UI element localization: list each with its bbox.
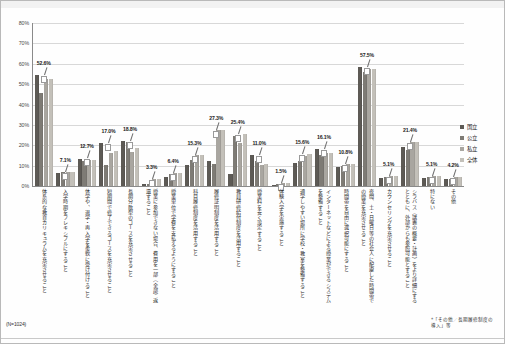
y-axis-tick: 40% xyxy=(3,102,29,108)
bar xyxy=(315,149,319,186)
x-axis-label: 入学時期をフレキシブルにすること xyxy=(62,189,69,272)
legend-label: 公立 xyxy=(467,134,477,142)
x-axis-label: 休学や、退学・再入学を柔軟に受け付けること xyxy=(83,189,90,298)
bar-group: 10.8% xyxy=(335,23,357,186)
label-marker xyxy=(127,142,133,149)
bar xyxy=(367,69,371,186)
legend-item[interactable]: 全体 xyxy=(460,154,498,165)
label-leader-line xyxy=(389,168,392,176)
label-marker xyxy=(429,177,435,184)
bar xyxy=(233,136,237,186)
bar xyxy=(104,165,108,186)
label-leader-line xyxy=(65,164,68,172)
legend-swatch-icon xyxy=(460,147,464,151)
label-marker xyxy=(342,165,348,172)
y-axis-tick: 10% xyxy=(3,163,29,169)
label-marker xyxy=(299,155,305,162)
legend-item[interactable]: 国立 xyxy=(460,121,498,132)
x-axis-label: 科目履修制度を活用すること xyxy=(191,189,198,257)
bar-group: 5.1% xyxy=(421,23,443,186)
x-axis-label-cell: 授業に参加できない場合、費用を一部（全部）返還すること xyxy=(141,189,163,307)
bar xyxy=(216,130,220,186)
x-axis-label-cell: 入学時期をフレキシブルにすること xyxy=(55,189,77,307)
bar xyxy=(415,142,419,186)
legend-label: 国立 xyxy=(467,123,477,131)
x-axis-label-cell: 授業単位で学費を支払えるようにすること xyxy=(162,189,184,307)
label-leader-line xyxy=(432,168,435,176)
label-leader-line xyxy=(216,123,219,131)
x-axis-label-cell: 時間帯を自由に選択可能にすること xyxy=(335,189,357,307)
bar xyxy=(406,150,410,186)
x-axis-label: 授業単位で学費を支払えるようにすること xyxy=(169,189,176,288)
bar xyxy=(260,165,264,186)
label-leader-line xyxy=(367,59,370,67)
x-axis-labels: 体系的な教育カリキュラムを充実させること入学時期をフレキシブルにすること休学や、… xyxy=(33,189,464,307)
legend-item[interactable]: 公立 xyxy=(460,132,498,143)
label-marker xyxy=(235,135,241,142)
x-axis-label: 履修証明制度を活用すること xyxy=(213,189,220,257)
x-axis-label-cell: 教員研修給付制度を活用すること xyxy=(227,189,249,307)
bar xyxy=(200,155,204,186)
bar xyxy=(212,164,216,186)
x-axis-label: 短期間で修了できるコースを充実させること xyxy=(105,189,112,293)
bar xyxy=(298,161,302,186)
bar-group: 16.1% xyxy=(313,23,335,186)
label-leader-line xyxy=(453,170,456,178)
bar xyxy=(92,160,96,186)
bar xyxy=(401,147,405,186)
bar xyxy=(293,163,297,186)
label-marker xyxy=(407,143,413,150)
bar-group: 18.8% xyxy=(119,23,141,186)
label-marker xyxy=(41,76,47,83)
bar xyxy=(207,161,211,186)
bar xyxy=(109,153,113,186)
bar xyxy=(358,67,362,186)
bar-group: 52.6% xyxy=(33,23,55,186)
x-axis-label-cell: 授業料を安く設定すること xyxy=(248,189,270,307)
bar xyxy=(243,134,247,186)
x-axis-label: その他 xyxy=(450,189,457,205)
bar xyxy=(185,165,189,186)
bar xyxy=(286,183,290,186)
bar xyxy=(190,160,194,186)
legend-label: 私立 xyxy=(467,145,477,153)
legend-swatch-icon xyxy=(460,158,464,162)
gridline xyxy=(32,186,464,187)
label-marker xyxy=(364,68,370,75)
x-axis-label: シラバス（講義の概要・計画）をより詳細にするとともに、外部からも参照可能とするこ… xyxy=(403,189,417,305)
label-leader-line xyxy=(324,142,327,150)
data-label: 10.8% xyxy=(338,149,352,155)
legend-swatch-icon xyxy=(460,136,464,140)
data-label: 21.4% xyxy=(403,127,417,133)
bar-group: 1.5% xyxy=(270,23,292,186)
x-axis-label: カウンセリングを充実させること xyxy=(385,189,392,267)
label-marker xyxy=(62,173,68,180)
label-leader-line xyxy=(173,165,176,173)
bar xyxy=(157,179,161,186)
label-leader-line xyxy=(44,67,47,75)
legend-swatch-icon xyxy=(460,125,464,129)
legend-item[interactable]: 私立 xyxy=(460,143,498,154)
x-axis-label: 授業料を安く設定すること xyxy=(256,189,263,251)
x-axis-label-cell: 夜間、土・日曜日等の社会人に配慮した時間帯での授業を充実させること xyxy=(356,189,378,307)
label-marker xyxy=(170,174,176,181)
bar-group: 6.4% xyxy=(162,23,184,186)
x-axis-label-cell: カウンセリングを充実させること xyxy=(378,189,400,307)
x-axis-label: インターネットなどによる授業ができるシステムを整備すること xyxy=(317,189,331,305)
y-axis-tick: 70% xyxy=(3,40,29,46)
data-label: 1.5% xyxy=(275,168,286,174)
label-marker xyxy=(84,159,90,166)
label-leader-line xyxy=(302,146,305,154)
label-marker xyxy=(192,156,198,163)
bar xyxy=(422,178,426,186)
data-label: 18.8% xyxy=(123,126,137,132)
bar xyxy=(458,177,462,186)
label-leader-line xyxy=(130,133,133,141)
bar-group: 7.1% xyxy=(55,23,77,186)
bar xyxy=(49,79,53,186)
sample-size-note: (N=1024) xyxy=(6,321,26,327)
data-label: 12.7% xyxy=(80,143,94,149)
x-axis-label-cell: 休学や、退学・再入学を柔軟に受け付けること xyxy=(76,189,98,307)
x-axis-label: 体系的な教育カリキュラムを充実させること xyxy=(40,189,47,293)
bar xyxy=(238,143,242,186)
